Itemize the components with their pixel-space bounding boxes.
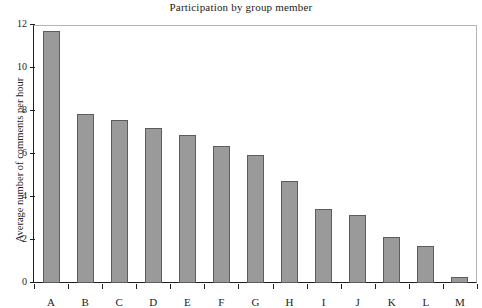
- x-tick-label: B: [68, 296, 102, 308]
- bar[interactable]: [315, 209, 332, 283]
- x-tick-label: L: [409, 296, 443, 308]
- bar[interactable]: [43, 31, 60, 283]
- y-tick-mark: [30, 196, 35, 197]
- x-tick-mark: [443, 284, 444, 289]
- y-tick-label: 6: [22, 147, 27, 158]
- y-tick-mark: [30, 24, 35, 25]
- y-tick-label: 2: [22, 233, 27, 244]
- y-tick-mark: [30, 153, 35, 154]
- y-tick-label: 0: [22, 276, 27, 287]
- x-tick-label: C: [102, 296, 136, 308]
- y-tick-mark: [30, 282, 35, 283]
- y-tick-label: 10: [17, 61, 27, 72]
- y-tick-mark: [30, 67, 35, 68]
- x-tick-mark: [34, 284, 35, 289]
- bar[interactable]: [213, 146, 230, 283]
- y-tick-label: 12: [17, 18, 27, 29]
- bar[interactable]: [111, 120, 128, 283]
- x-tick-mark: [238, 284, 239, 289]
- y-tick-label: 8: [22, 104, 27, 115]
- x-tick-mark: [273, 284, 274, 289]
- x-tick-label: I: [307, 296, 341, 308]
- y-tick-mark: [30, 110, 35, 111]
- x-tick-label: G: [238, 296, 272, 308]
- x-tick-label: J: [341, 296, 375, 308]
- bar[interactable]: [247, 155, 264, 283]
- x-tick-label: H: [273, 296, 307, 308]
- x-tick-label: E: [170, 296, 204, 308]
- x-tick-mark: [307, 284, 308, 289]
- x-tick-mark: [341, 284, 342, 289]
- y-tick-label: 4: [22, 190, 27, 201]
- bar[interactable]: [281, 181, 298, 283]
- x-tick-mark: [68, 284, 69, 289]
- x-tick-label: F: [204, 296, 238, 308]
- x-tick-mark: [375, 284, 376, 289]
- bar[interactable]: [349, 215, 366, 283]
- x-tick-mark: [477, 284, 478, 289]
- plot-area: 024681012 ABCDEFGHIJKLM: [34, 25, 477, 283]
- chart-title: Participation by group member: [0, 1, 482, 13]
- x-tick-mark: [409, 284, 410, 289]
- x-tick-mark: [102, 284, 103, 289]
- bar[interactable]: [179, 135, 196, 283]
- x-tick-label: M: [443, 296, 477, 308]
- x-tick-label: A: [34, 296, 68, 308]
- y-tick-mark: [30, 239, 35, 240]
- x-tick-mark: [204, 284, 205, 289]
- x-tick-label: K: [375, 296, 409, 308]
- bar[interactable]: [451, 277, 468, 283]
- bar[interactable]: [417, 246, 434, 283]
- bar[interactable]: [145, 128, 162, 283]
- x-tick-label: D: [136, 296, 170, 308]
- bar[interactable]: [77, 114, 94, 283]
- x-tick-mark: [136, 284, 137, 289]
- bar[interactable]: [383, 237, 400, 283]
- x-tick-mark: [170, 284, 171, 289]
